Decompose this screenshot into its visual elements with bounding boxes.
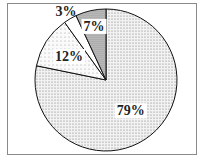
slice-label: 7% <box>84 19 105 34</box>
slice-label: 12% <box>55 49 83 64</box>
pie-chart: 79%12%3%7% <box>0 0 202 164</box>
slice-label: 79% <box>117 103 145 118</box>
slice-label: 3% <box>55 4 76 19</box>
